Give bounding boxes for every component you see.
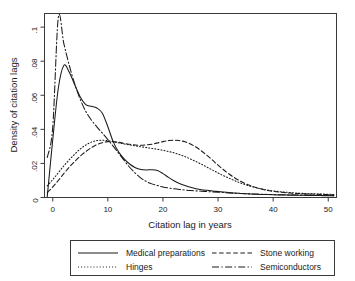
x-tick-label: 0: [51, 205, 56, 214]
y-tick-label: .04: [31, 126, 40, 138]
citation-lag-density-plot: 0.02.04.06.08.1 01020304050 Citation lag…: [0, 0, 355, 281]
y-tick-label: .06: [31, 92, 40, 104]
y-tick-label: .02: [31, 160, 40, 172]
y-axis-title: Density of citation lags: [8, 57, 19, 152]
x-tick-label: 10: [103, 205, 112, 214]
x-tick-label: 50: [324, 205, 333, 214]
x-axis-title: Citation lag in years: [148, 219, 232, 230]
y-tick-label: 0: [31, 198, 40, 203]
density-chart-figure: 0.02.04.06.08.1 01020304050 Citation lag…: [0, 0, 355, 281]
x-tick-label: 20: [158, 205, 167, 214]
y-tick-label: .08: [31, 58, 40, 70]
legend-label-medical-preparations: Medical preparations: [126, 248, 205, 258]
y-tick-label: .1: [31, 26, 40, 33]
x-tick-label: 40: [269, 205, 278, 214]
legend-label-semiconductors: Semiconductors: [260, 262, 321, 272]
legend-label-hinges: Hinges: [126, 262, 152, 272]
x-tick-label: 30: [214, 205, 223, 214]
legend-label-stone-working: Stone working: [260, 248, 314, 258]
